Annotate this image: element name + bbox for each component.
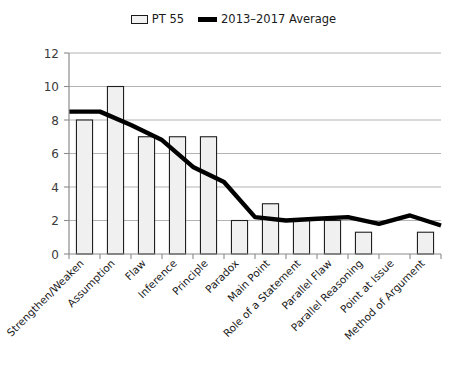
gridlines-group: [69, 53, 441, 221]
bar-series-pt55: [76, 87, 433, 255]
bar: [138, 137, 154, 254]
bar: [231, 221, 247, 255]
bar: [355, 232, 371, 254]
line-series-average: [69, 112, 441, 226]
bar: [293, 221, 309, 255]
chart-plot-area: 024681012 Strengthen/WeakenAssumptionFla…: [0, 0, 467, 373]
y-tick-label: 12: [44, 47, 59, 61]
bar: [324, 221, 340, 255]
y-axis-tick-labels: 024681012: [44, 47, 59, 262]
y-tick-label: 0: [51, 248, 59, 262]
x-axis-category-labels: Strengthen/WeakenAssumptionFlawInference…: [4, 257, 427, 342]
bar: [200, 137, 216, 254]
bar: [107, 87, 123, 255]
y-tick-label: 2: [51, 214, 59, 228]
x-axis-category-label: Flaw: [122, 257, 148, 283]
chart-container: PT 55 2013–2017 Average 024681012 Streng…: [0, 0, 467, 373]
bar: [76, 120, 92, 254]
y-tick-label: 10: [44, 80, 59, 94]
y-tick-label: 6: [51, 147, 59, 161]
y-tick-marks-group: [64, 53, 69, 254]
bar: [417, 232, 433, 254]
y-tick-label: 4: [51, 181, 59, 195]
y-tick-label: 8: [51, 114, 59, 128]
bar: [262, 204, 278, 254]
average-trend-line: [69, 112, 441, 226]
